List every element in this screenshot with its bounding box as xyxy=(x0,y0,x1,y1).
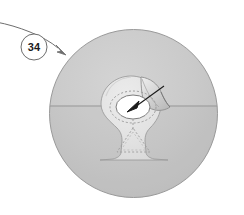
technical-drawing: 34 xyxy=(0,0,244,215)
leader-arrowhead xyxy=(56,45,66,55)
callout-label: 34 xyxy=(28,41,41,53)
callout-34[interactable]: 34 xyxy=(0,22,66,60)
figure-canvas: 34 xyxy=(0,0,244,215)
